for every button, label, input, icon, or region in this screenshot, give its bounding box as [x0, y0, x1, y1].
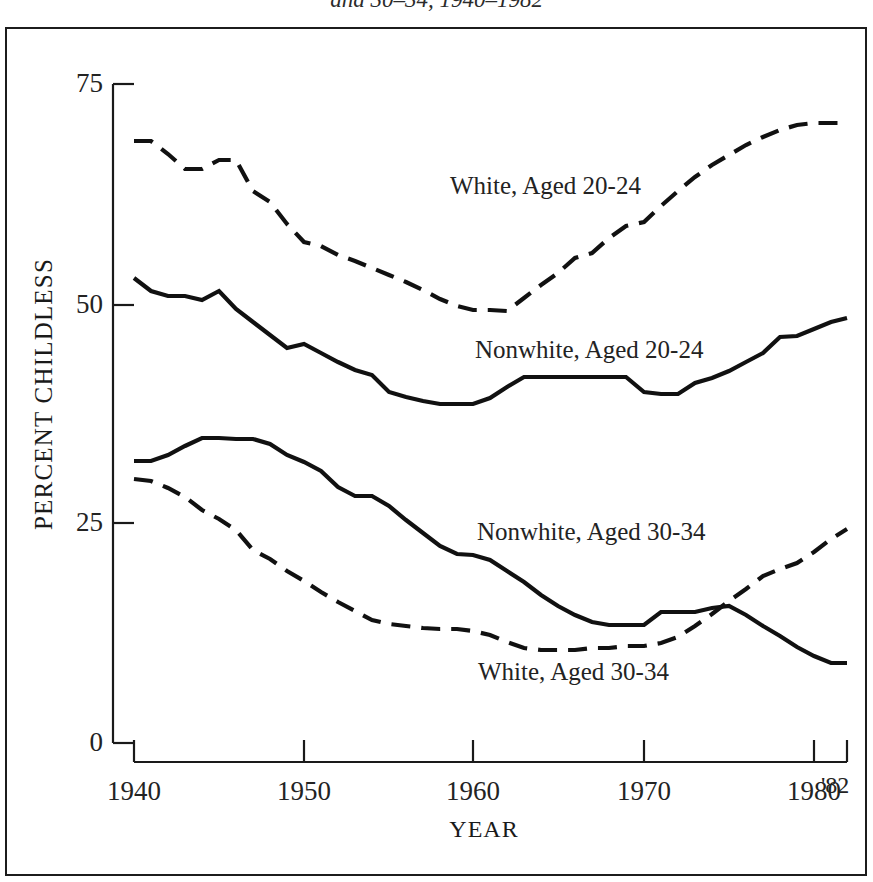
x-axis-title: YEAR — [404, 816, 564, 843]
series-line-nonwhite-30-34 — [134, 438, 847, 663]
y-tick-label-75: 75 — [55, 68, 103, 99]
y-tick-label-25: 25 — [55, 507, 103, 538]
x-axis-ticks — [134, 740, 847, 762]
x-tick-label-1940: 1940 — [79, 776, 189, 807]
x-tick-label-1970: 1970 — [589, 776, 699, 807]
y-axis-title: PERCENT CHILDLESS — [30, 258, 58, 530]
series-label-nonwhite-30-34: Nonwhite, Aged 30-34 — [477, 518, 705, 546]
data-series-group — [134, 123, 847, 663]
series-label-nonwhite-20-24: Nonwhite, Aged 20-24 — [475, 336, 703, 364]
series-label-white-30-34: White, Aged 30-34 — [478, 658, 669, 686]
series-line-white-30-34 — [134, 479, 847, 650]
x-tick-label-1982: '82 — [821, 772, 873, 799]
y-axis-ticks — [113, 84, 134, 743]
series-label-white-20-24: White, Aged 20-24 — [450, 172, 641, 200]
x-tick-label-1960: 1960 — [418, 776, 528, 807]
series-line-white-20-24 — [134, 123, 847, 311]
x-tick-label-1950: 1950 — [249, 776, 359, 807]
chart-canvas — [0, 0, 873, 882]
y-tick-label-50: 50 — [55, 289, 103, 320]
y-tick-label-0: 0 — [55, 727, 103, 758]
